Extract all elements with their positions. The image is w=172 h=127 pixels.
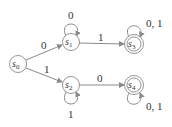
edge-s1-s3: [79, 43, 124, 44]
label-s2-loop: 1: [68, 108, 74, 120]
fsm-diagram: 0 1 0 1 1 0 0, 1 0, 1 s0 s1 s2 s3 s4: [0, 0, 172, 127]
label-s3-loop: 0, 1: [146, 17, 163, 29]
label-s1-s3: 1: [98, 31, 104, 43]
state-s0: s0: [10, 56, 27, 73]
label-s0-s2: 1: [44, 63, 50, 75]
label-s2-s4: 0: [97, 72, 103, 84]
label-s0-s1: 0: [41, 39, 47, 51]
label-s1-loop: 0: [68, 9, 74, 21]
state-s2: s2: [63, 77, 80, 94]
label-s4-loop: 0, 1: [146, 100, 163, 112]
state-s1: s1: [63, 34, 80, 51]
state-s3-accepting: s3: [125, 35, 144, 54]
state-s4-accepting: s4: [125, 76, 144, 95]
